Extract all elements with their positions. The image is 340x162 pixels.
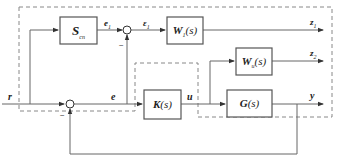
- signal-line-r-to-scn: [30, 30, 58, 104]
- block-scn-sub: cn: [79, 34, 85, 40]
- block-wu-arg: (s): [255, 55, 267, 67]
- signal-label-e1-sub: 1: [108, 24, 111, 30]
- signal-label-z2-sub: 2: [314, 54, 317, 60]
- signal-label-e: e: [111, 92, 115, 102]
- minus-sign-sum1: −: [119, 42, 124, 50]
- signal-label-z2: z2: [310, 49, 317, 60]
- block-g-label: G(s): [227, 98, 272, 109]
- signal-label-u: u: [187, 92, 193, 102]
- minus-sign-sum2: −: [60, 112, 65, 120]
- signal-label-z1-sub: 1: [314, 23, 317, 29]
- block-g-arg: (s): [248, 97, 260, 109]
- signal-label-r: r: [8, 92, 12, 102]
- block-w1-label: W1(s): [167, 25, 203, 38]
- block-scn-label: Scn: [60, 24, 97, 40]
- block-wu-symbol: W: [242, 55, 252, 67]
- block-wu-label: Wu(s): [236, 56, 272, 69]
- block-w1-symbol: W: [173, 24, 183, 36]
- signal-label-eps1-sub: 1: [147, 24, 150, 30]
- block-g-symbol: G: [240, 97, 248, 109]
- signal-label-eps1: ε1: [143, 19, 150, 30]
- summing-junction-1: [123, 26, 131, 34]
- signal-label-y: y: [310, 91, 314, 101]
- block-w1-arg: (s): [186, 24, 198, 36]
- block-k-arg: (s): [160, 98, 172, 110]
- signal-label-e1: e1: [104, 19, 111, 30]
- summing-junction-2: [66, 100, 74, 108]
- signal-label-z1: z1: [310, 18, 317, 29]
- block-k-label: K(s): [144, 99, 181, 110]
